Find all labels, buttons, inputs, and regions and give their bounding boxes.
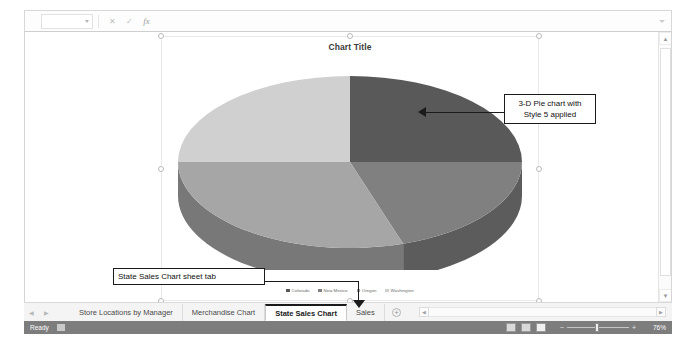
horizontal-scrollbar-track[interactable] <box>429 307 656 317</box>
chart-object[interactable]: Chart Title ColoradoNew MexicoOregonWash… <box>161 36 539 301</box>
resize-handle-top-right[interactable] <box>536 33 542 39</box>
chart-title[interactable]: Chart Title <box>161 42 539 52</box>
scroll-left-icon[interactable]: ◀ <box>419 307 429 317</box>
legend-item[interactable]: Colorado <box>286 288 309 293</box>
legend-swatch-icon <box>318 289 321 292</box>
legend-label: Washington <box>391 288 414 293</box>
formula-input[interactable] <box>161 14 651 29</box>
sheet-tabs: Store Locations by ManagerMerchandise Ch… <box>70 303 385 321</box>
page-layout-view-icon[interactable] <box>521 323 531 332</box>
scroll-right-icon[interactable]: ▶ <box>656 307 666 317</box>
zoom-level[interactable]: 76% <box>640 324 666 331</box>
sheet-tab-merchandise-chart[interactable]: Merchandise Chart <box>183 304 265 321</box>
zoom-slider[interactable]: − + <box>560 324 636 331</box>
cancel-icon[interactable]: ✕ <box>106 15 119 28</box>
excel-chart-sheet-window: ✕ ✓ fx ▲ ▼ Chart Title <box>0 0 674 346</box>
zoom-out-button[interactable]: − <box>560 324 564 331</box>
sheet-tab-store-locations-by-manager[interactable]: Store Locations by Manager <box>70 304 183 321</box>
view-buttons <box>506 323 546 332</box>
normal-view-icon[interactable] <box>506 323 516 332</box>
tab-callout-arrowhead-icon <box>353 300 365 308</box>
legend-item[interactable]: Washington <box>385 288 413 293</box>
legend-item[interactable]: Oregon <box>357 288 377 293</box>
tab-callout: State Sales Chart sheet tab <box>113 268 265 285</box>
pie-callout: 3-D Pie chart with Style 5 applied <box>504 94 596 124</box>
formula-bar-expand-chevron-down-icon[interactable] <box>659 20 665 23</box>
pie-callout-leader-line <box>424 112 504 113</box>
enter-icon[interactable]: ✓ <box>123 15 136 28</box>
zoom-slider-track[interactable] <box>567 327 629 328</box>
plus-icon: + <box>392 308 401 317</box>
vertical-scrollbar-thumb[interactable] <box>660 48 671 276</box>
resize-handle-middle-left[interactable] <box>158 166 164 172</box>
legend-label: New Mexico <box>324 288 348 293</box>
horizontal-scrollbar[interactable]: ◀ ▶ <box>419 307 666 318</box>
tab-callout-leader-horizontal <box>265 281 359 282</box>
scroll-up-icon[interactable]: ▲ <box>659 32 672 45</box>
resize-handle-top-left[interactable] <box>158 33 164 39</box>
legend-label: Colorado <box>292 288 310 293</box>
name-box-chevron-down-icon[interactable] <box>85 20 89 23</box>
chart-sheet-canvas: ▲ ▼ Chart Title ColoradoNew MexicoO <box>24 32 672 302</box>
resize-handle-top-center[interactable] <box>347 33 353 39</box>
pie-chart-svg <box>173 70 527 270</box>
legend-swatch-icon <box>286 289 289 292</box>
pie-slice-colorado[interactable] <box>350 76 522 162</box>
vertical-scrollbar[interactable]: ▲ ▼ <box>658 32 671 302</box>
legend-item[interactable]: New Mexico <box>318 288 347 293</box>
sheet-tab-state-sales-chart[interactable]: State Sales Chart <box>265 304 347 321</box>
page-break-preview-icon[interactable] <box>536 323 546 332</box>
name-box[interactable] <box>41 14 93 29</box>
previous-sheet-icon[interactable]: ◀ <box>29 309 34 316</box>
scroll-down-icon[interactable]: ▼ <box>659 289 672 302</box>
sheet-tab-bar: ◀ ▶ Store Locations by ManagerMerchandis… <box>24 302 672 321</box>
formula-bar-divider <box>98 15 99 28</box>
zoom-in-button[interactable]: + <box>632 324 636 331</box>
status-bar: Ready − + 76% <box>24 321 672 334</box>
insert-function-icon[interactable]: fx <box>140 15 153 28</box>
accessibility-icon[interactable] <box>57 324 65 331</box>
next-sheet-icon[interactable]: ▶ <box>44 309 49 316</box>
chart-legend[interactable]: ColoradoNew MexicoOregonWashington <box>161 288 539 293</box>
legend-label: Oregon <box>362 288 377 293</box>
pie-chart-plot-area[interactable] <box>173 70 527 270</box>
new-sheet-button[interactable]: + <box>385 304 409 321</box>
pie-slice-washington[interactable] <box>178 76 350 162</box>
zoom-slider-thumb[interactable] <box>595 323 599 332</box>
formula-bar: ✕ ✓ fx <box>24 10 672 32</box>
resize-handle-middle-right[interactable] <box>536 166 542 172</box>
status-text: Ready <box>30 324 49 331</box>
sheet-navigation-arrows[interactable]: ◀ ▶ <box>24 303 70 321</box>
legend-swatch-icon <box>385 289 388 292</box>
